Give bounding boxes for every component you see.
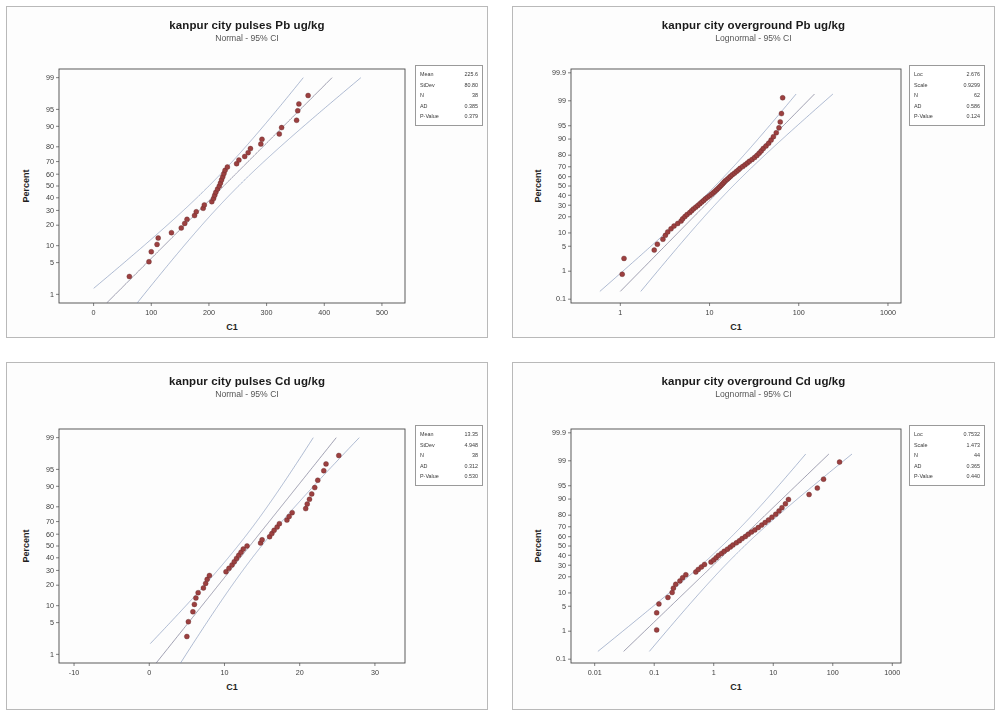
- data-point: [778, 119, 783, 124]
- y-tick-label: 80: [46, 502, 54, 511]
- y-tick-label: 5: [50, 258, 54, 267]
- y-tick-label: 60: [558, 172, 566, 181]
- y-tick-label: 70: [46, 517, 54, 526]
- y-tick-label: 40: [558, 191, 566, 200]
- y-tick-label: 60: [46, 530, 54, 539]
- y-axis-title: Percent: [21, 529, 31, 562]
- data-point: [127, 274, 132, 279]
- data-points: [127, 93, 311, 279]
- plot-svg-overground-pb: 1101001000C10.11510203040506070809095999…: [513, 7, 996, 339]
- stat-label: AD: [420, 461, 436, 472]
- y-tick-label: 95: [558, 121, 566, 130]
- x-tick-label: 10: [220, 668, 228, 677]
- data-point: [807, 492, 812, 497]
- data-point: [837, 460, 842, 465]
- stat-row: P-Value0.530: [420, 471, 478, 482]
- statistics-box: Loc2.676Scale0.9299N62AD0.586P-Value0.12…: [909, 65, 985, 126]
- panel-pulses-pb: kanpur city pulses Pb ug/kg Normal - 95%…: [6, 6, 488, 338]
- data-point: [670, 590, 675, 595]
- data-point: [821, 477, 826, 482]
- data-point: [654, 627, 659, 632]
- data-point: [185, 217, 190, 222]
- y-tick-label: 50: [46, 181, 54, 190]
- x-tick-label: 10: [706, 308, 714, 317]
- data-point: [190, 609, 195, 614]
- stat-value: 225.6: [465, 69, 479, 80]
- y-tick-label: 1: [562, 626, 566, 635]
- y-tick-label: 50: [558, 541, 566, 550]
- x-tick-label: 100: [145, 308, 157, 317]
- y-tick-label: 99.9: [552, 68, 566, 77]
- stat-row: N38: [420, 450, 478, 461]
- data-point: [225, 165, 230, 170]
- y-tick-label: 80: [558, 510, 566, 519]
- stat-row: StDev4.948: [420, 440, 478, 451]
- y-tick-label: 30: [46, 206, 54, 215]
- data-points: [184, 453, 341, 639]
- data-point: [620, 272, 625, 277]
- data-point: [656, 601, 661, 606]
- data-point: [194, 209, 199, 214]
- data-point: [179, 225, 184, 230]
- stat-row: AD0.365: [914, 461, 980, 472]
- stat-value: 13.35: [465, 429, 479, 440]
- stat-value: 38: [472, 450, 478, 461]
- data-point: [156, 236, 161, 241]
- stat-value: 0.586: [967, 101, 981, 112]
- x-tick-label: 30: [371, 668, 379, 677]
- data-point: [242, 154, 247, 159]
- stat-value: 0.379: [465, 111, 479, 122]
- y-tick-label: 60: [46, 170, 54, 179]
- stat-row: Mean225.6: [420, 69, 478, 80]
- y-tick-label: 90: [46, 122, 54, 131]
- stat-label: P-Value: [420, 471, 447, 482]
- stat-row: N38: [420, 90, 478, 101]
- y-tick-label: 90: [46, 482, 54, 491]
- data-point: [780, 95, 785, 100]
- stat-value: 0.312: [465, 461, 479, 472]
- stat-value: 0.530: [465, 471, 479, 482]
- x-tick-label: 0.1: [649, 668, 659, 677]
- data-point: [312, 485, 317, 490]
- y-tick-label: 40: [46, 193, 54, 202]
- stat-label: N: [420, 450, 432, 461]
- x-tick-label: 100: [793, 308, 805, 317]
- data-point: [258, 142, 263, 147]
- plot-area: 1101001000C10.11510203040506070809095999…: [513, 7, 994, 337]
- stat-row: AD0.586: [914, 101, 980, 112]
- y-tick-label: 40: [46, 553, 54, 562]
- x-axis-title: C1: [226, 682, 238, 692]
- y-axis-title: Percent: [533, 169, 543, 202]
- y-tick-label: 70: [558, 522, 566, 531]
- data-point: [279, 125, 284, 130]
- y-tick-label: 95: [558, 481, 566, 490]
- y-tick-label: 99: [558, 456, 566, 465]
- data-point: [315, 478, 320, 483]
- y-tick-label: 99.9: [552, 428, 566, 437]
- y-tick-label: 60: [558, 532, 566, 541]
- stat-label: Mean: [420, 69, 442, 80]
- x-tick-label: 300: [261, 308, 273, 317]
- data-point: [305, 502, 310, 507]
- x-axis-title: C1: [226, 322, 238, 332]
- stat-row: N62: [914, 90, 980, 101]
- x-axis-title: C1: [730, 682, 742, 692]
- stat-row: Scale0.9299: [914, 80, 980, 91]
- x-tick-label: 100: [827, 668, 839, 677]
- stat-row: AD0.312: [420, 461, 478, 472]
- data-point: [683, 572, 688, 577]
- stat-label: AD: [914, 461, 930, 472]
- stat-value: 38: [472, 90, 478, 101]
- stat-value: 4.948: [465, 440, 479, 451]
- y-axis-title: Percent: [533, 529, 543, 562]
- stat-value: 80.80: [465, 80, 479, 91]
- fit-and-ci-lines: [150, 438, 359, 663]
- data-point: [196, 590, 201, 595]
- y-tick-label: 90: [558, 134, 566, 143]
- data-point: [201, 585, 206, 590]
- stat-label: Mean: [420, 429, 442, 440]
- stat-label: P-Value: [914, 471, 941, 482]
- stat-label: N: [420, 90, 432, 101]
- data-point: [260, 537, 265, 542]
- data-point: [779, 505, 784, 510]
